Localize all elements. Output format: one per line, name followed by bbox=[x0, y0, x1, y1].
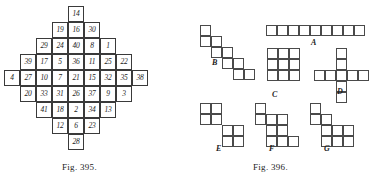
grid-cell: 32 bbox=[100, 70, 116, 86]
polyomino-cell-c bbox=[267, 48, 278, 59]
grid-cell-value: 28 bbox=[72, 138, 79, 146]
polyomino-cell-a bbox=[354, 25, 365, 36]
polyomino-cell-a bbox=[321, 25, 332, 36]
figure-395-panel: 1419163029244081391753611252242710721153… bbox=[0, 0, 189, 189]
grid-cell-value: 36 bbox=[72, 58, 79, 66]
polyomino-cell-f bbox=[266, 114, 277, 125]
grid-cell-value: 11 bbox=[89, 58, 96, 66]
polyomino-cell-d bbox=[325, 70, 336, 81]
grid-cell: 12 bbox=[52, 118, 68, 134]
grid-cell: 36 bbox=[68, 54, 84, 70]
grid-cell: 28 bbox=[68, 134, 84, 150]
polyomino-cell-c bbox=[289, 48, 300, 59]
grid-cell: 11 bbox=[84, 54, 100, 70]
grid-cell: 35 bbox=[116, 70, 132, 86]
grid-cell-value: 12 bbox=[56, 122, 63, 130]
grid-cell: 20 bbox=[20, 86, 36, 102]
polyomino-cell-b bbox=[200, 25, 211, 36]
grid-cell-value: 20 bbox=[24, 90, 31, 98]
grid-cell: 24 bbox=[52, 38, 68, 54]
polyomino-cell-g bbox=[310, 103, 321, 114]
grid-cell: 40 bbox=[68, 38, 84, 54]
polyomino-cell-a bbox=[310, 25, 321, 36]
polyomino-cell-c bbox=[278, 70, 289, 81]
polyomino-cell-g bbox=[343, 125, 354, 136]
polyomino-cell-b bbox=[244, 69, 255, 80]
grid-cell: 29 bbox=[36, 38, 52, 54]
grid-cell: 4 bbox=[4, 70, 20, 86]
grid-cell-value: 27 bbox=[24, 74, 31, 82]
grid-cell: 2 bbox=[68, 102, 84, 118]
polyomino-cell-d bbox=[336, 48, 347, 59]
polyomino-cell-a bbox=[288, 25, 299, 36]
grid-cell: 1 bbox=[100, 38, 116, 54]
grid-cell-value: 23 bbox=[88, 122, 95, 130]
grid-cell-value: 38 bbox=[136, 74, 143, 82]
grid-cell-value: 2 bbox=[74, 106, 78, 114]
grid-cell-value: 9 bbox=[106, 90, 110, 98]
grid-cell-value: 18 bbox=[56, 106, 63, 114]
grid-cell-value: 32 bbox=[104, 74, 111, 82]
polyomino-cell-f bbox=[277, 136, 288, 147]
polyomino-cell-f bbox=[266, 125, 277, 136]
polyomino-cell-d bbox=[314, 70, 325, 81]
polyomino-cell-f bbox=[277, 114, 288, 125]
grid-cell: 26 bbox=[68, 86, 84, 102]
grid-cell-value: 16 bbox=[72, 26, 79, 34]
grid-cell-value: 22 bbox=[120, 58, 127, 66]
polyomino-cell-b bbox=[233, 58, 244, 69]
grid-cell-value: 41 bbox=[40, 106, 47, 114]
grid-cell: 30 bbox=[84, 22, 100, 38]
grid-cell-value: 26 bbox=[72, 90, 79, 98]
grid-cell-value: 33 bbox=[40, 90, 47, 98]
polyomino-cell-a bbox=[277, 25, 288, 36]
polyomino-cell-e bbox=[222, 136, 233, 147]
grid-cell-value: 15 bbox=[88, 74, 95, 82]
shape-label-f: F bbox=[269, 144, 274, 153]
grid-cell-value: 3 bbox=[122, 90, 126, 98]
polyomino-cell-e bbox=[233, 125, 244, 136]
grid-cell-value: 10 bbox=[40, 74, 47, 82]
grid-cell: 16 bbox=[68, 22, 84, 38]
polyomino-cell-g bbox=[321, 125, 332, 136]
grid-cell-value: 24 bbox=[56, 42, 63, 50]
grid-cell: 33 bbox=[36, 86, 52, 102]
polyomino-cell-g bbox=[321, 114, 332, 125]
grid-cell-value: 5 bbox=[58, 58, 62, 66]
polyomino-cell-e bbox=[200, 103, 211, 114]
shape-label-c: C bbox=[272, 90, 277, 99]
grid-cell: 41 bbox=[36, 102, 52, 118]
polyomino-cell-d bbox=[347, 70, 358, 81]
polyomino-cell-f bbox=[277, 125, 288, 136]
figure-395-caption: Fig. 395. bbox=[62, 162, 97, 172]
grid-cell: 3 bbox=[116, 86, 132, 102]
grid-cell-value: 4 bbox=[10, 74, 14, 82]
polyomino-cell-d bbox=[336, 70, 347, 81]
grid-cell-value: 29 bbox=[40, 42, 47, 50]
grid-cell-value: 34 bbox=[88, 106, 95, 114]
polyomino-cell-f bbox=[255, 114, 266, 125]
polyomino-cell-c bbox=[267, 70, 278, 81]
polyomino-cell-c bbox=[278, 59, 289, 70]
grid-cell: 5 bbox=[52, 54, 68, 70]
polyomino-cell-d bbox=[358, 70, 369, 81]
grid-cell-value: 25 bbox=[104, 58, 111, 66]
polyomino-cell-f bbox=[255, 103, 266, 114]
grid-cell: 21 bbox=[68, 70, 84, 86]
grid-cell: 13 bbox=[100, 102, 116, 118]
grid-cell-value: 40 bbox=[72, 42, 79, 50]
grid-cell: 15 bbox=[84, 70, 100, 86]
polyomino-cell-e bbox=[200, 114, 211, 125]
shape-label-e: E bbox=[216, 144, 221, 153]
grid-cell: 9 bbox=[100, 86, 116, 102]
polyomino-cell-c bbox=[289, 59, 300, 70]
polyomino-cell-b bbox=[211, 36, 222, 47]
polyomino-cell-b bbox=[233, 69, 244, 80]
polyomino-cell-d bbox=[336, 59, 347, 70]
grid-cell-value: 7 bbox=[58, 74, 62, 82]
polyomino-cell-g bbox=[332, 125, 343, 136]
grid-cell-value: 8 bbox=[90, 42, 94, 50]
figure-plate: 1419163029244081391753611252242710721153… bbox=[0, 0, 378, 189]
polyomino-cell-e bbox=[211, 103, 222, 114]
polyomino-cell-g bbox=[332, 136, 343, 147]
